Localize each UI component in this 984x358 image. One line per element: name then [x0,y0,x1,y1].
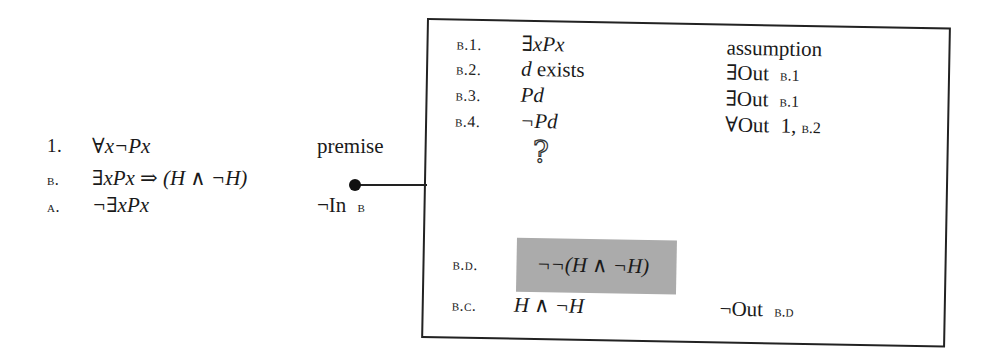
formula-term: d [521,57,532,81]
line-label: b.2. [456,61,482,79]
line-label: b.d. [452,256,478,274]
rule-reference-number: 1, [780,113,796,137]
question-mark-icon: ? [532,134,549,169]
line-justification: ¬In b [317,195,365,216]
rule-reference: b.2 [801,119,821,136]
line-formula: ∃xPx ⇒ (H ∧ ¬H) [92,168,247,189]
rule-name: ∃Out [726,60,769,85]
line-label: b.3. [455,87,481,105]
formula-text: exists [531,57,585,82]
line-justification: ¬Out b.d [720,298,794,320]
rule-name: ∃Out [725,86,768,111]
line-formula: d exists [521,59,585,81]
rule-reference: b.1 [780,92,800,109]
line-formula: H ∧ ¬H [514,295,585,317]
line-formula: ∃xPx [521,34,564,56]
subproof-box: b.1. ∃xPx assumption b.2. d exists ∃Out … [421,18,951,348]
line-label: b.4. [455,113,481,131]
rule-reference: b.d [774,302,794,319]
line-justification: assumption [726,37,822,60]
bullet-dot-icon [349,179,361,191]
line-label: b.c. [452,297,477,315]
connector-line [357,184,427,186]
line-label: b. [47,171,59,189]
line-label: 1. [47,136,62,155]
line-formula: ¬∃xPx [92,195,149,216]
rule-reference: b.1 [780,66,800,83]
rule-name: ∀Out [725,112,770,137]
line-justification: premise [317,136,383,157]
line-formula: ¬Pd [520,111,558,133]
rule-name: ¬Out [720,296,764,321]
line-justification: ∀Out 1, b.2 [725,114,821,137]
goal-formula: ¬¬(H ∧ ¬H) [536,254,649,277]
line-label: b.1. [456,36,482,54]
line-label: a. [47,198,60,216]
line-justification: ∃Out b.1 [726,62,800,84]
line-formula: Pd [520,85,544,106]
line-formula: ∀x¬Px [92,136,150,157]
line-justification: ∃Out b.1 [725,88,799,110]
rule-reference: b [358,198,365,215]
rule-name: ¬In [317,193,346,217]
